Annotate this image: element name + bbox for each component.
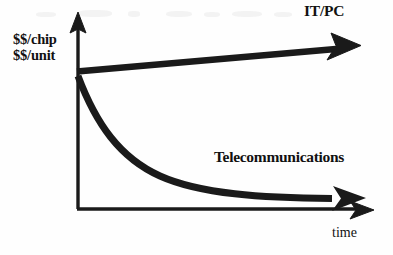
series-label-telecommunications: Telecommunications: [214, 149, 344, 166]
axes-group: [70, 12, 374, 219]
y-axis-label: $$/chip $$/unit: [13, 32, 57, 63]
series-it-pc: [77, 33, 361, 72]
series-telecommunications: [78, 76, 332, 199]
series-label-it-pc: IT/PC: [304, 3, 344, 20]
chart-canvas: [0, 0, 393, 255]
it-pc-line: [77, 49, 336, 72]
chart-figure: $$/chip $$/unit IT/PC Telecommunications…: [0, 0, 393, 255]
y-axis-label-line1: $$/chip: [13, 32, 57, 48]
y-axis-label-line2: $$/unit: [13, 48, 57, 64]
x-axis-label: time: [332, 225, 357, 240]
telecom-curve: [78, 76, 332, 199]
